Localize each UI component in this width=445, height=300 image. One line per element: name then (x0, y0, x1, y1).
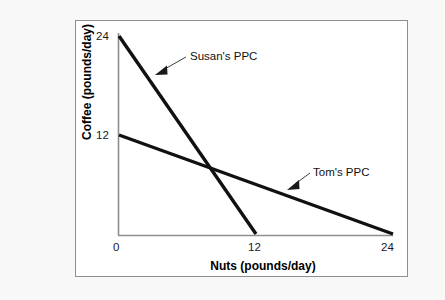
susans-ppc-line (119, 36, 256, 234)
x-axis-tick-label-12: 12 (248, 241, 261, 253)
susans-ppc-annotation-arrowhead (155, 66, 168, 76)
toms-ppc-line (119, 135, 393, 234)
toms-ppc-label: Tom's PPC (313, 166, 370, 178)
figure-root: 24 12 0 12 24 Susan's PPC Tom's PPC Nuts… (0, 0, 445, 300)
x-axis-title: Nuts (pounds/day) (118, 259, 408, 273)
susans-ppc-label: Susan's PPC (190, 50, 257, 62)
x-axis-tick-label-24: 24 (381, 241, 394, 253)
y-axis-tick-label-12: 12 (96, 129, 109, 141)
x-axis-tick-label-0: 0 (113, 241, 119, 253)
toms-ppc-annotation-arrowhead (287, 180, 300, 190)
y-axis-tick-label-24: 24 (96, 30, 109, 42)
ppc-chart-plot (0, 0, 445, 300)
y-axis-title: Coffee (pounds/day) (80, 0, 94, 172)
